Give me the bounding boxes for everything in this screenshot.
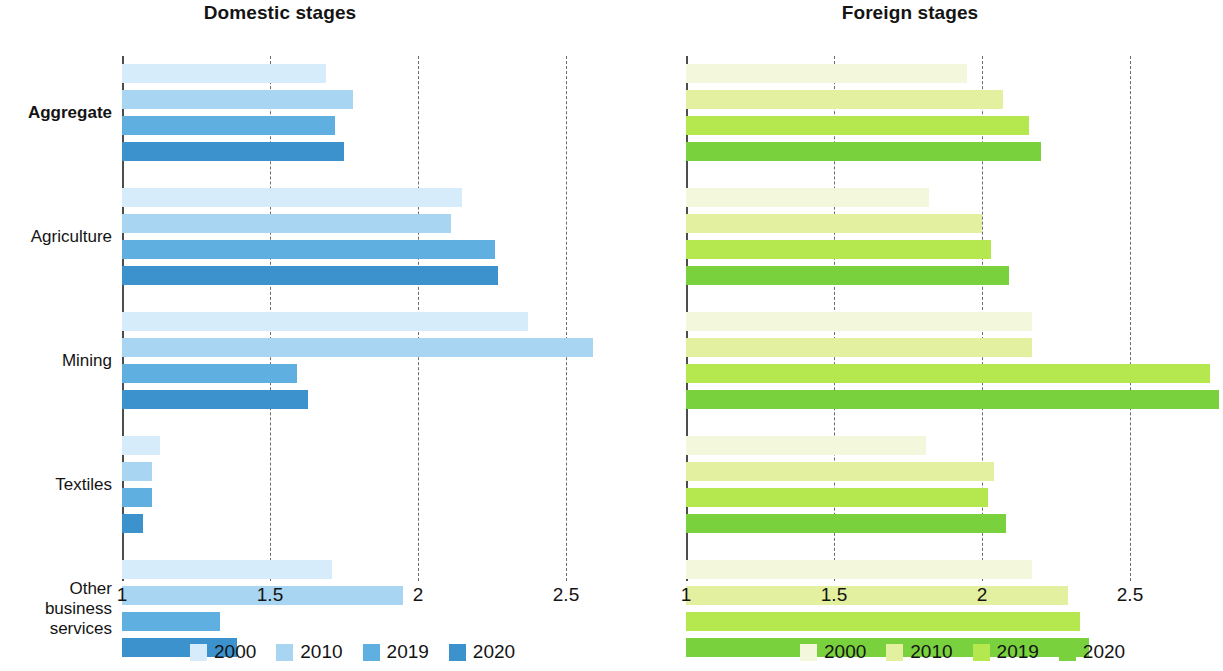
x-tick-label-2-5: 2.5 bbox=[1117, 584, 1143, 606]
legend-item-2000[interactable]: 2000 bbox=[190, 641, 256, 663]
legend-label-2010: 2010 bbox=[300, 641, 342, 663]
category-label-line: services bbox=[0, 619, 112, 639]
plot-area-domestic bbox=[122, 56, 570, 581]
legend-swatch-2000 bbox=[190, 644, 207, 661]
x-tick-label-2: 2 bbox=[977, 584, 988, 606]
legend-item-2019[interactable]: 2019 bbox=[363, 641, 429, 663]
gridline-2-5 bbox=[1130, 56, 1132, 581]
x-tick-label-2: 2 bbox=[413, 584, 424, 606]
legend-domestic: 2000201020192020 bbox=[190, 641, 535, 663]
legend-item-2020[interactable]: 2020 bbox=[1059, 641, 1125, 663]
category-label-line: Other bbox=[0, 579, 112, 599]
legend-swatch-2010 bbox=[886, 644, 903, 661]
bar-mining-2020 bbox=[122, 390, 308, 409]
category-label-line: business bbox=[0, 599, 112, 619]
bar-textiles-2010 bbox=[686, 462, 994, 481]
legend-label-2020: 2020 bbox=[473, 641, 515, 663]
plot-area-foreign bbox=[686, 56, 1133, 581]
legend-label-2000: 2000 bbox=[824, 641, 866, 663]
bar-agriculture-2019 bbox=[122, 240, 495, 259]
bar-aggregate-2010 bbox=[122, 90, 353, 109]
bar-other-business-services-2019 bbox=[686, 612, 1080, 631]
panel-foreign-stages: Foreign stages 11.522.5 2000201020192020 bbox=[600, 0, 1223, 671]
bar-other-business-services-2000 bbox=[686, 560, 1032, 579]
legend-item-2019[interactable]: 2019 bbox=[973, 641, 1039, 663]
bar-aggregate-2010 bbox=[686, 90, 1003, 109]
legend-label-2000: 2000 bbox=[214, 641, 256, 663]
legend-item-2010[interactable]: 2010 bbox=[276, 641, 342, 663]
category-label-aggregate: Aggregate bbox=[0, 103, 112, 123]
bar-mining-2010 bbox=[686, 338, 1032, 357]
category-label-line: Aggregate bbox=[0, 103, 112, 123]
legend-swatch-2019 bbox=[973, 644, 990, 661]
bar-agriculture-2000 bbox=[686, 188, 929, 207]
bar-mining-2000 bbox=[686, 312, 1032, 331]
legend-label-2019: 2019 bbox=[387, 641, 429, 663]
bar-agriculture-2020 bbox=[686, 266, 1009, 285]
bar-other-business-services-2000 bbox=[122, 560, 332, 579]
bar-aggregate-2020 bbox=[686, 142, 1041, 161]
bar-agriculture-2019 bbox=[686, 240, 991, 259]
bar-aggregate-2000 bbox=[122, 64, 326, 83]
category-label-mining: Mining bbox=[0, 351, 112, 371]
bar-mining-2020 bbox=[686, 390, 1219, 409]
bar-aggregate-2019 bbox=[122, 116, 335, 135]
bar-textiles-2020 bbox=[686, 514, 1006, 533]
bar-textiles-2019 bbox=[122, 488, 152, 507]
bar-agriculture-2020 bbox=[122, 266, 498, 285]
x-tick-label-1-5: 1.5 bbox=[257, 584, 283, 606]
bar-aggregate-2020 bbox=[122, 142, 344, 161]
bar-textiles-2020 bbox=[122, 514, 143, 533]
bar-textiles-2000 bbox=[122, 436, 160, 455]
bar-mining-2019 bbox=[122, 364, 297, 383]
legend-item-2020[interactable]: 2020 bbox=[449, 641, 515, 663]
category-label-agriculture: Agriculture bbox=[0, 227, 112, 247]
legend-label-2019: 2019 bbox=[997, 641, 1039, 663]
x-tick-label-1: 1 bbox=[681, 584, 692, 606]
legend-item-2000[interactable]: 2000 bbox=[800, 641, 866, 663]
legend-swatch-2019 bbox=[363, 644, 380, 661]
category-label-line: Agriculture bbox=[0, 227, 112, 247]
bar-other-business-services-2010 bbox=[686, 586, 1068, 605]
bar-other-business-services-2019 bbox=[122, 612, 220, 631]
bar-aggregate-2000 bbox=[686, 64, 967, 83]
legend-swatch-2010 bbox=[276, 644, 293, 661]
bar-agriculture-2000 bbox=[122, 188, 462, 207]
bar-agriculture-2010 bbox=[686, 214, 982, 233]
panel-title-domestic: Domestic stages bbox=[0, 2, 560, 24]
figure-container: Domestic stages AggregateAgricultureMini… bbox=[0, 0, 1223, 671]
x-tick-label-1-5: 1.5 bbox=[821, 584, 847, 606]
legend-label-2010: 2010 bbox=[910, 641, 952, 663]
category-label-other-business-services: Otherbusinessservices bbox=[0, 579, 112, 639]
panel-domestic-stages: Domestic stages AggregateAgricultureMini… bbox=[0, 0, 620, 671]
panel-title-foreign: Foreign stages bbox=[600, 2, 1220, 24]
bar-mining-2000 bbox=[122, 312, 528, 331]
legend-foreign: 2000201020192020 bbox=[800, 641, 1145, 663]
legend-swatch-2020 bbox=[449, 644, 466, 661]
bar-mining-2010 bbox=[122, 338, 593, 357]
bar-mining-2019 bbox=[686, 364, 1210, 383]
x-tick-label-2-5: 2.5 bbox=[553, 584, 579, 606]
bar-textiles-2019 bbox=[686, 488, 988, 507]
legend-swatch-2020 bbox=[1059, 644, 1076, 661]
legend-label-2020: 2020 bbox=[1083, 641, 1125, 663]
bar-textiles-2000 bbox=[686, 436, 926, 455]
category-label-line: Textiles bbox=[0, 475, 112, 495]
bar-aggregate-2019 bbox=[686, 116, 1029, 135]
bar-textiles-2010 bbox=[122, 462, 152, 481]
category-label-line: Mining bbox=[0, 351, 112, 371]
gridline-2-5 bbox=[566, 56, 568, 581]
x-tick-label-1: 1 bbox=[117, 584, 128, 606]
legend-item-2010[interactable]: 2010 bbox=[886, 641, 952, 663]
bar-agriculture-2010 bbox=[122, 214, 451, 233]
category-label-textiles: Textiles bbox=[0, 475, 112, 495]
legend-swatch-2000 bbox=[800, 644, 817, 661]
